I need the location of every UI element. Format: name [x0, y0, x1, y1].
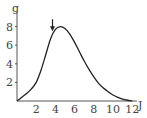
y-tick-labels: 2468	[6, 21, 17, 90]
y-tick-label: 6	[6, 39, 13, 52]
chart: 2468 24681012 g J	[0, 0, 147, 118]
x-tick-label: 2	[33, 103, 40, 116]
data-curve	[17, 27, 132, 101]
x-axis-label: J	[137, 99, 142, 112]
y-tick-label: 4	[6, 58, 13, 71]
x-tick-labels: 24681012	[33, 103, 140, 116]
x-tick-label: 6	[71, 103, 78, 116]
x-tick-label: 4	[52, 103, 59, 116]
x-tick-label: 8	[90, 103, 97, 116]
y-axis-label: g	[12, 2, 19, 15]
arrow-annotation	[50, 19, 55, 31]
y-tick-label: 8	[6, 21, 13, 34]
x-tick-label: 10	[106, 103, 120, 116]
y-tick-label: 2	[6, 76, 13, 89]
